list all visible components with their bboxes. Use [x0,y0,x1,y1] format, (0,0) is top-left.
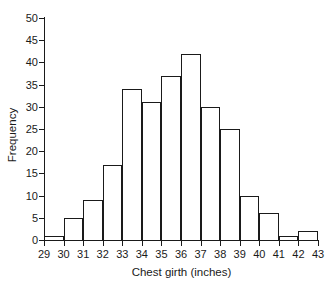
histogram-bar [103,165,123,240]
y-axis-tick [39,85,44,86]
y-axis-tick-label: 20 [2,146,38,157]
y-axis-tick [39,18,44,19]
y-axis-tick-label: 5 [2,212,38,223]
y-axis-tick-label: 0 [2,235,38,246]
y-axis-tick-label: 15 [2,168,38,179]
y-axis-tick-label: 30 [2,101,38,112]
x-axis-tick [318,241,319,246]
histogram-bar [298,231,318,240]
x-axis-tick [64,241,65,246]
x-axis-tick [220,241,221,246]
y-axis-tick [39,151,44,152]
y-axis-tick [39,218,44,219]
y-axis-tick-label: 10 [2,190,38,201]
y-axis-tick [39,40,44,41]
x-axis-tick-label: 43 [307,249,329,260]
histogram-bar [44,236,64,240]
histogram-bar [240,196,260,240]
y-axis-tick [39,196,44,197]
x-axis-tick [240,241,241,246]
x-axis-tick [181,241,182,246]
y-axis-tick-label: 45 [2,35,38,46]
y-axis-tick [39,107,44,108]
histogram-bar [201,107,221,240]
histogram-bar [181,54,201,240]
x-axis-tick [279,241,280,246]
y-axis-tick-label: 25 [2,124,38,135]
x-axis-tick [122,241,123,246]
y-axis-labels: 05101520253035404550 [0,0,38,290]
histogram-figure: Frequency 05101520253035404550 Chest gir… [0,0,336,290]
histogram-bar [259,213,279,240]
x-axis-tick [103,241,104,246]
x-axis-title: Chest girth (inches) [44,266,319,278]
histogram-bar [64,218,84,240]
x-axis-tick [142,241,143,246]
x-axis-tick [201,241,202,246]
x-axis-tick [44,241,45,246]
y-axis-tick-label: 40 [2,57,38,68]
y-axis-tick-label: 35 [2,79,38,90]
x-axis-tick [259,241,260,246]
histogram-bar [220,129,240,240]
y-axis-tick [39,173,44,174]
y-axis-tick-label: 50 [2,13,38,24]
y-axis-tick [39,129,44,130]
plot-area [44,18,318,240]
x-axis-tick [298,241,299,246]
histogram-bar [83,200,103,240]
y-axis-tick [39,62,44,63]
x-axis-tick [83,241,84,246]
histogram-bar [279,236,299,240]
x-axis-tick [161,241,162,246]
histogram-bar [142,102,162,240]
histogram-bar [122,89,142,240]
histogram-bar [161,76,181,240]
